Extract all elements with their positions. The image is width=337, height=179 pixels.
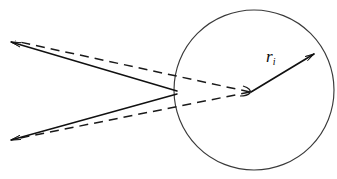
diagram-svg bbox=[0, 0, 337, 179]
solid-ray-upper bbox=[11, 42, 177, 91]
radius-label-subscript: i bbox=[273, 56, 276, 67]
dashed-ray-upper bbox=[15, 41, 250, 92]
solid-ray-lower bbox=[11, 94, 177, 140]
radius-vector-arrow bbox=[251, 54, 314, 92]
radius-label: ri bbox=[266, 48, 275, 67]
dashed-ray-lower bbox=[15, 92, 250, 139]
radius-label-base: r bbox=[266, 47, 273, 66]
diagram-canvas: ri bbox=[0, 0, 337, 179]
